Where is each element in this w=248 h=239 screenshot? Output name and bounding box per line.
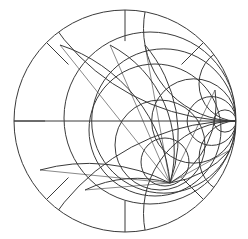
inner-circle — [115, 100, 205, 190]
converging-line — [145, 45, 170, 183]
radial-line — [47, 43, 69, 65]
reactance-arc — [14, 0, 248, 121]
radial-line — [182, 43, 204, 65]
radial-line — [47, 178, 69, 200]
converging-line — [40, 170, 170, 183]
converging-arc — [145, 45, 178, 183]
smith-chart-diagram — [0, 0, 248, 239]
